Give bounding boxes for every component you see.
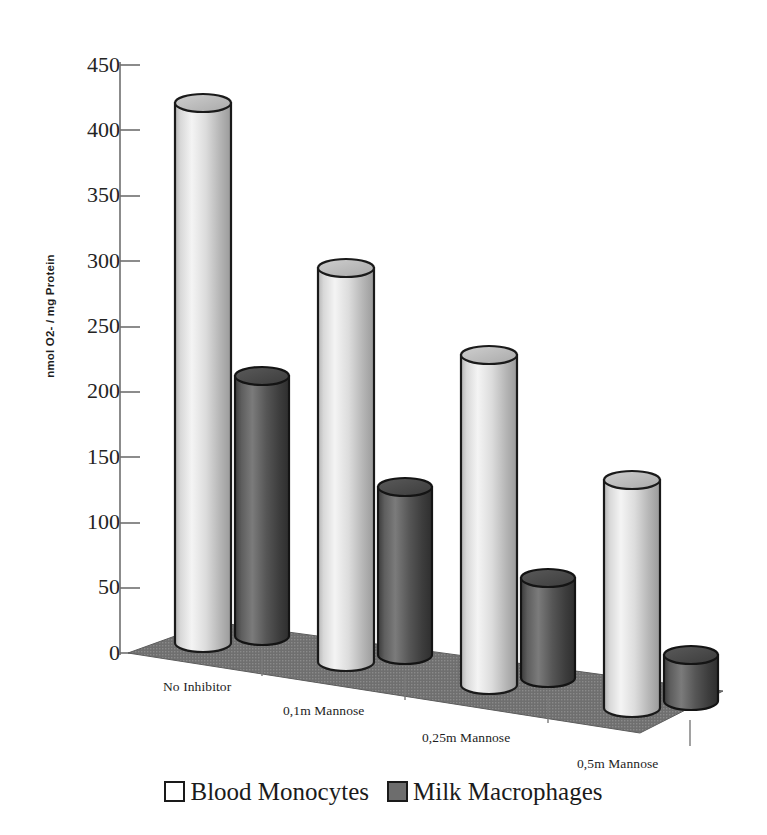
bar-milk-macrophages-0-5m-mannose <box>664 646 718 710</box>
legend-label: Blood Monocytes <box>190 779 368 804</box>
bar-milk-macrophages-no-inhibitor <box>235 367 289 645</box>
chart-legend: Blood Monocytes Milk Macrophages <box>0 779 767 804</box>
chart-container: nmol O2- / mg Protein 450 400 350 300 25… <box>0 0 767 835</box>
legend-item-milk-macrophages: Milk Macrophages <box>387 779 603 804</box>
bar-blood-monocytes-0-1m-mannose <box>318 259 374 671</box>
light-swatch-icon <box>164 781 185 802</box>
bar-milk-macrophages-0-1m-mannose <box>378 478 432 664</box>
plot-area <box>0 0 767 835</box>
bar-milk-macrophages-0-25m-mannose <box>521 569 575 687</box>
legend-label: Milk Macrophages <box>413 779 603 804</box>
dark-swatch-icon <box>387 781 408 802</box>
bar-blood-monocytes-0-25m-mannose <box>461 346 517 694</box>
bar-blood-monocytes-no-inhibitor <box>175 94 231 652</box>
bar-blood-monocytes-0-5m-mannose <box>604 471 660 717</box>
legend-item-blood-monocytes: Blood Monocytes <box>164 779 368 804</box>
y-axis-line <box>120 62 140 655</box>
